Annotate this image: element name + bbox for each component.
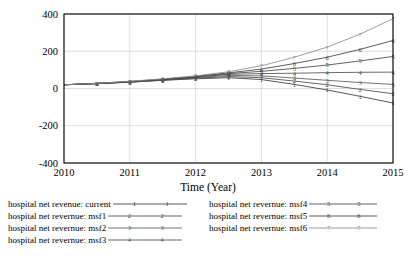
- legend-item-sample: 55: [307, 198, 420, 210]
- legend-item-sample: 22: [106, 210, 205, 222]
- data-point-marker: 7: [358, 31, 362, 38]
- legend-item-label: hospital net revenue: current: [0, 198, 111, 210]
- data-point-marker: 3: [358, 79, 361, 86]
- legend-item-sample: 33: [106, 222, 205, 234]
- legend-item-sample: 11: [111, 198, 205, 210]
- x-tick-label: 2010: [54, 167, 75, 178]
- legend-item[interactable]: hospital net revernue: msf677: [205, 222, 420, 234]
- data-point-marker: 5: [358, 57, 361, 64]
- legend-line-sample: 66: [307, 210, 379, 222]
- y-axis-ticks: 4002000-200-400: [39, 9, 58, 169]
- x-axis-ticks: 201020112012201320142015: [54, 167, 404, 178]
- legend-item[interactable]: hospital net revernue: msf233: [0, 222, 205, 234]
- chart-page: 1111111111222222222233333333334444444444…: [0, 0, 420, 261]
- legend-sample-marker: 5: [357, 200, 360, 207]
- legend-item-sample: 44: [106, 234, 205, 246]
- legend-sample-marker: 3: [161, 224, 164, 231]
- x-tick-label: 2014: [317, 167, 339, 178]
- x-tick-label: 2013: [251, 167, 272, 178]
- legend-item[interactable]: hospital net revenue: current11: [0, 198, 205, 210]
- y-tick-label: 0: [53, 83, 58, 94]
- legend-item-label: hospital net revernue: msf6: [205, 222, 307, 234]
- y-tick-label: 200: [42, 46, 58, 57]
- legend-item-label: hospital net revernue: msf4: [205, 198, 307, 210]
- plot-area: 1111111111222222222233333333334444444444…: [0, 0, 420, 196]
- legend-item[interactable]: hospital net revernue: msf455: [205, 198, 420, 210]
- legend-item-label: hospital net revernue: msf2: [0, 222, 106, 234]
- chart-legend: hospital net revenue: current11hospital …: [0, 196, 420, 261]
- legend-sample-marker: 3: [128, 224, 131, 231]
- data-point-marker: 1: [358, 93, 361, 100]
- legend-sample-marker: 1: [165, 200, 168, 207]
- legend-sample-marker: 2: [161, 212, 164, 219]
- legend-item-sample: 66: [307, 210, 420, 222]
- legend-item[interactable]: hospital net revernue: msf344: [0, 234, 205, 246]
- legend-sample-marker: 5: [327, 200, 330, 207]
- x-axis-label: Time (Year): [180, 181, 236, 194]
- x-tick-label: 2012: [185, 167, 206, 178]
- legend-line-sample: 44: [106, 234, 184, 246]
- data-point-marker: 7: [326, 44, 330, 51]
- x-tick-label: 2015: [383, 167, 404, 178]
- legend-line-sample: 33: [106, 222, 184, 234]
- legend-item-label: hospital net revernue: msf3: [0, 234, 106, 246]
- data-point-marker: 3: [326, 77, 329, 84]
- legend-sample-marker: 2: [128, 212, 131, 219]
- legend-item[interactable]: hospital net revernue: msf122: [0, 210, 205, 222]
- legend-line-sample: 55: [307, 198, 379, 210]
- data-point-marker: 5: [326, 61, 329, 68]
- legend-line-sample: 22: [106, 210, 184, 222]
- legend-sample-marker: 1: [132, 200, 135, 207]
- series-group: 1111111111222222222233333333334444444444…: [64, 15, 395, 106]
- y-tick-label: 400: [42, 9, 58, 20]
- legend-item-label: hospital net revernue: msf1: [0, 210, 106, 222]
- legend-line-sample: 11: [111, 198, 189, 210]
- line-chart-svg: 1111111111222222222233333333334444444444…: [0, 0, 420, 196]
- legend-item[interactable]: hospital net revernue: msf566: [205, 210, 420, 222]
- legend-item-label: hospital net revernue: msf5: [205, 210, 307, 222]
- x-tick-label: 2011: [119, 167, 140, 178]
- legend-line-sample: 77: [307, 222, 379, 234]
- data-point-marker: 2: [358, 86, 361, 93]
- y-tick-label: -200: [39, 120, 58, 131]
- legend-item-sample: 77: [307, 222, 420, 234]
- grid-lines: [64, 14, 393, 163]
